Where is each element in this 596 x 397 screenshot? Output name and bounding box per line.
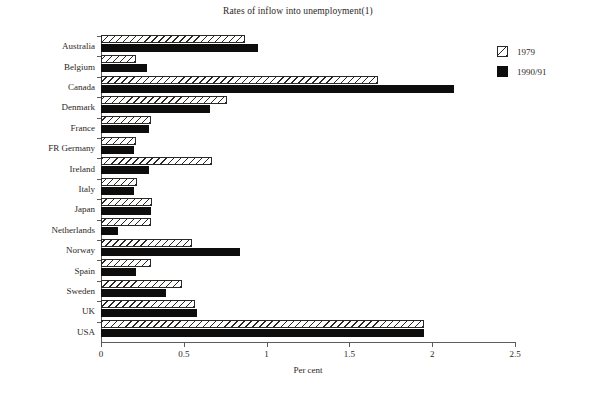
bar-spain-1979 [101, 259, 151, 267]
bar-australia-1990-91 [101, 44, 258, 52]
bar-netherlands-1979 [101, 218, 151, 226]
x-tick-label: 0.5 [178, 349, 189, 359]
x-tick-mark [267, 342, 268, 347]
x-tick-label: 1 [264, 349, 269, 359]
bar-canada-1979 [101, 76, 378, 84]
bar-uk-1979 [101, 300, 195, 308]
bar-sweden-1979 [101, 280, 182, 288]
bar-sweden-1990-91 [101, 289, 166, 297]
bar-belgium-1990-91 [101, 64, 147, 72]
chart-root: Rates of inflow into unemployment(1) 00.… [0, 0, 596, 397]
category-label: Japan [75, 204, 96, 214]
x-tick-mark [432, 342, 433, 347]
bar-belgium-1979 [101, 55, 136, 63]
bar-spain-1990-91 [101, 268, 136, 276]
category-label: Ireland [70, 164, 95, 174]
bar-norway-1979 [101, 239, 192, 247]
category-label: Sweden [67, 286, 96, 296]
bar-japan-1990-91 [101, 207, 151, 215]
bar-usa-1979 [101, 320, 424, 328]
category-label: France [71, 123, 96, 133]
bar-fr-germany-1979 [101, 137, 136, 145]
category-label: Denmark [62, 102, 96, 112]
category-label: Canada [68, 82, 95, 92]
bar-france-1979 [101, 116, 151, 124]
category-label: Netherlands [52, 225, 95, 235]
category-label: Spain [74, 266, 95, 276]
legend-item-1990-91: 1990/91 [497, 66, 547, 77]
bar-norway-1990-91 [101, 248, 240, 256]
x-axis-title: Per cent [101, 365, 515, 375]
bar-denmark-1990-91 [101, 105, 210, 113]
bar-ireland-1990-91 [101, 166, 149, 174]
bar-australia-1979 [101, 35, 245, 43]
legend-item-1979: 1979 [497, 46, 547, 57]
bar-denmark-1979 [101, 96, 227, 104]
category-label: UK [82, 306, 95, 316]
x-tick-label: 2.5 [509, 349, 520, 359]
x-tick-mark [101, 342, 102, 347]
bar-canada-1990-91 [101, 85, 454, 93]
bar-france-1990-91 [101, 125, 149, 133]
x-tick-mark [515, 342, 516, 347]
x-axis-line [101, 342, 515, 343]
category-label: FR Germany [48, 143, 95, 153]
bar-fr-germany-1990-91 [101, 146, 134, 154]
category-label: Belgium [64, 62, 95, 72]
x-tick-label: 1.5 [344, 349, 355, 359]
bar-netherlands-1990-91 [101, 227, 118, 235]
bar-italy-1979 [101, 178, 137, 186]
bar-usa-1990-91 [101, 329, 424, 337]
chart-title: Rates of inflow into unemployment(1) [0, 6, 596, 16]
chart-legend: 1979 1990/91 [497, 46, 547, 86]
x-tick-label: 2 [430, 349, 435, 359]
x-tick-mark [184, 342, 185, 347]
bar-japan-1979 [101, 198, 152, 206]
legend-label: 1990/91 [517, 67, 547, 77]
plot-area: 00.511.522.5 [101, 36, 515, 342]
category-label: Norway [66, 245, 95, 255]
bar-uk-1990-91 [101, 309, 197, 317]
bar-ireland-1979 [101, 157, 212, 165]
legend-swatch-hatched-icon [497, 46, 508, 57]
x-tick-mark [349, 342, 350, 347]
category-label: USA [77, 327, 95, 337]
category-label: Italy [79, 184, 96, 194]
x-tick-label: 0 [99, 349, 104, 359]
legend-swatch-solid-icon [497, 66, 508, 77]
bar-italy-1990-91 [101, 187, 134, 195]
legend-label: 1979 [517, 47, 535, 57]
category-label: Australia [62, 41, 95, 51]
